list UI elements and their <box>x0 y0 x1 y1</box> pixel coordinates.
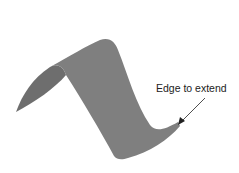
surface-main <box>50 39 180 159</box>
diagram-canvas: Edge to extend <box>0 0 239 173</box>
annotation-leader-line <box>182 98 205 121</box>
surface-back-fold <box>16 65 66 112</box>
arrowhead-icon <box>178 117 185 125</box>
annotation-label: Edge to extend <box>156 82 227 94</box>
